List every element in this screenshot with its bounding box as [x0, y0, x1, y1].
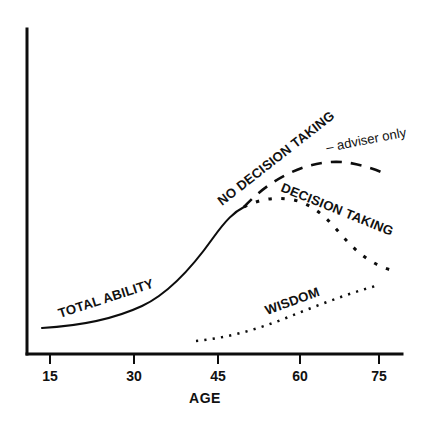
x-tick-label-60: 60	[292, 368, 308, 384]
x-tick-label-30: 30	[126, 368, 142, 384]
chart-canvas: 15 30 45 60 75 AGE TOTAL ABILITY NO DECI…	[0, 0, 422, 423]
series-label-total-ability: TOTAL ABILITY	[56, 276, 155, 321]
series-label-wisdom-group: WISDOM	[263, 284, 322, 318]
series-label-adviser-only: – adviser only	[325, 125, 408, 155]
x-axis-title: AGE	[189, 390, 221, 406]
x-axis-tick-labels: 15 30 45 60 75	[42, 368, 387, 384]
chart-figure: 15 30 45 60 75 AGE TOTAL ABILITY NO DECI…	[0, 0, 422, 423]
series-line-wisdom	[196, 285, 379, 341]
x-tick-label-75: 75	[371, 368, 387, 384]
series-label-wisdom: WISDOM	[263, 284, 322, 318]
x-tick-label-15: 15	[42, 368, 58, 384]
series-label-total-ability-group: TOTAL ABILITY	[56, 276, 155, 321]
x-tick-label-45: 45	[210, 368, 226, 384]
